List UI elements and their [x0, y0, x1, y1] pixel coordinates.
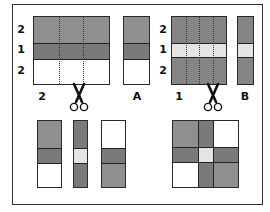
cut-line — [59, 17, 60, 84]
band-white — [124, 59, 149, 85]
patch-white — [214, 121, 239, 148]
cut-line — [199, 17, 200, 84]
band-medium — [238, 17, 253, 43]
patch-dark — [199, 121, 214, 148]
cut-line — [186, 17, 187, 84]
band-medium — [124, 17, 149, 43]
patch-white — [173, 163, 199, 188]
patch-dark — [199, 163, 214, 188]
row-label-bottom: 2 — [158, 65, 168, 76]
band-white — [34, 59, 109, 85]
scissors-icon — [202, 84, 224, 114]
strip-set-b — [171, 16, 227, 85]
band-medium — [102, 163, 125, 188]
band-dark — [74, 121, 87, 148]
band-dark — [102, 148, 125, 163]
row-label-top: 2 — [16, 24, 26, 35]
cut-line — [213, 17, 214, 84]
band-dark — [34, 43, 109, 59]
band-light — [74, 148, 87, 163]
row-label-top: 2 — [158, 24, 168, 35]
nine-patch-block — [172, 120, 239, 188]
band-light — [238, 43, 253, 57]
strip-a-label: A — [131, 91, 143, 102]
band-dark — [74, 163, 87, 188]
width-label: 2 — [37, 91, 47, 102]
band-white — [38, 163, 61, 188]
patch-medium — [173, 121, 199, 148]
cut-strip-3 — [101, 120, 126, 188]
strip-a — [123, 16, 150, 85]
strip-b-label: B — [239, 91, 251, 102]
row-label-middle: 1 — [16, 44, 26, 55]
cut-strip-1 — [37, 120, 62, 188]
patch-light-center — [199, 148, 214, 163]
width-label: 1 — [174, 91, 184, 102]
band-medium — [34, 17, 109, 43]
scissors-icon — [68, 84, 90, 114]
band-dark — [124, 43, 149, 59]
band-white — [102, 121, 125, 148]
cut-line — [83, 17, 84, 84]
patch-dark — [173, 148, 199, 163]
strip-b — [237, 16, 254, 85]
row-label-middle: 1 — [158, 44, 168, 55]
patch-medium — [214, 163, 239, 188]
strip-set-a — [33, 16, 110, 85]
band-dark — [38, 148, 61, 163]
row-label-bottom: 2 — [16, 65, 26, 76]
patch-dark — [214, 148, 239, 163]
band-medium — [38, 121, 61, 148]
band-medium — [238, 57, 253, 85]
cut-strip-2 — [73, 120, 88, 188]
